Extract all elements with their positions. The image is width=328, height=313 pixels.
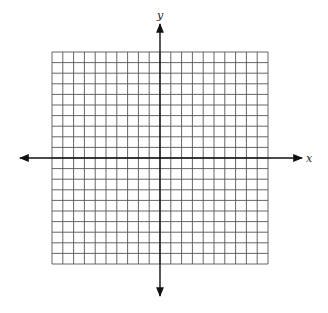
y-axis-label: y — [156, 9, 164, 22]
coordinate-plane: x y — [0, 0, 328, 313]
x-axis-label: x — [306, 152, 313, 165]
axes — [20, 24, 302, 296]
